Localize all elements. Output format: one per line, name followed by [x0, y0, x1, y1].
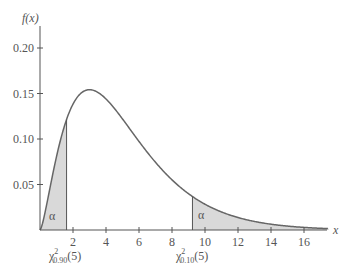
x-tick-label: 14: [265, 235, 277, 249]
y-ticks: 0.050.100.150.20: [13, 41, 43, 192]
alpha-right-label: α: [198, 208, 205, 222]
cutoff-lines: [67, 119, 193, 230]
x-tick-label: 8: [169, 235, 175, 249]
x-axis-label: x: [332, 223, 339, 237]
cutoff-right-label: χ20.10(5): [175, 247, 208, 265]
x-tick-label: 2: [70, 235, 76, 249]
alpha-left-label: α: [49, 209, 56, 223]
y-tick-label: 0.15: [13, 87, 34, 101]
chi-square-chart: 246810121416 0.050.100.150.20 f(x) x α α…: [0, 0, 350, 276]
shaded-regions: [40, 119, 329, 230]
density-curve: [40, 90, 328, 230]
y-axis-label: f(x): [22, 11, 39, 25]
x-tick-label: 6: [136, 235, 142, 249]
x-tick-label: 16: [298, 235, 310, 249]
x-tick-label: 10: [199, 235, 211, 249]
x-tick-label: 12: [232, 235, 244, 249]
cutoff-left-label: χ20.90(5): [48, 247, 81, 265]
shaded-region: [192, 197, 328, 230]
y-tick-label: 0.05: [13, 178, 34, 192]
y-tick-label: 0.10: [13, 132, 34, 146]
y-tick-label: 0.20: [13, 41, 34, 55]
x-tick-label: 4: [103, 235, 109, 249]
